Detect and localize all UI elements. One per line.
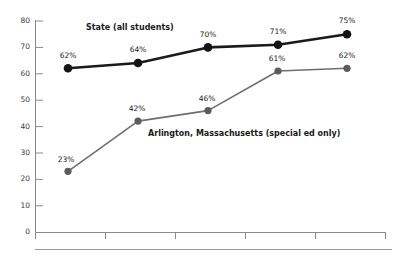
data-point [343,30,352,39]
arlington-series-points [64,65,350,175]
data-point [274,41,283,50]
arlington-series-annotation: Arlington, Massachusetts (special ed onl… [148,129,340,138]
data-label: 23% [58,155,75,164]
data-label: 62% [339,51,356,60]
data-label: 61% [269,54,286,63]
data-label: 42% [129,104,146,113]
data-point [204,43,213,52]
y-tick-label-20: 20 [20,174,30,183]
arlington-series-line [68,68,347,171]
y-tick-label-0: 0 [25,227,30,236]
data-label: 62% [60,51,77,60]
y-axis-tick-labels: 80 70 60 50 40 30 20 10 0 [20,16,30,236]
state-series-annotation: State (all students) [86,23,174,32]
y-axis-ticks [36,21,44,206]
data-point [134,118,141,125]
data-label: 64% [130,45,147,54]
y-tick-label-40: 40 [20,122,30,131]
data-point [64,64,73,73]
data-label: 71% [270,27,287,36]
data-point [64,168,71,175]
data-label: 70% [200,30,217,39]
data-label: 75% [339,16,356,25]
y-tick-label-50: 50 [20,95,30,104]
data-point [274,67,281,74]
chart-canvas: 80 70 60 50 40 30 20 10 0 [0,0,396,254]
y-tick-label-10: 10 [20,201,30,210]
line-chart: 80 70 60 50 40 30 20 10 0 [0,0,396,254]
y-tick-label-80: 80 [20,16,30,25]
y-tick-label-60: 60 [20,69,30,78]
y-tick-label-70: 70 [20,42,30,51]
data-label: 46% [199,94,216,103]
data-point [343,65,350,72]
y-tick-label-30: 30 [20,148,30,157]
data-point [204,107,211,114]
data-point [134,59,143,68]
x-axis-ticks [36,233,386,240]
